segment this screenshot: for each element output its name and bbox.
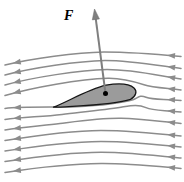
flow-arrowhead-icon bbox=[13, 89, 21, 95]
force-label: F bbox=[63, 8, 74, 23]
flow-arrowhead-icon bbox=[13, 104, 21, 110]
airfoil-flow-figure: F bbox=[0, 0, 184, 182]
center-of-pressure-dot bbox=[103, 91, 108, 96]
flow-arrowhead-icon bbox=[13, 135, 21, 141]
streamline bbox=[5, 118, 181, 130]
flow-arrowhead-icon bbox=[13, 125, 21, 131]
streamline bbox=[5, 70, 181, 86]
streamline bbox=[5, 52, 181, 65]
streamline bbox=[5, 152, 181, 161]
force-vector-shaft bbox=[96, 17, 106, 93]
streamline bbox=[5, 61, 181, 76]
flow-arrowhead-icon bbox=[167, 97, 175, 103]
flow-arrowhead-icon bbox=[167, 75, 175, 81]
streamline-diagram-canvas: F bbox=[0, 0, 184, 182]
force-arrowhead-icon bbox=[92, 9, 99, 20]
flow-arrowhead-icon bbox=[167, 65, 175, 71]
flow-arrowhead-icon bbox=[13, 78, 21, 84]
streamline bbox=[5, 164, 181, 173]
flow-arrowhead-icon bbox=[13, 146, 21, 152]
airfoil-shape bbox=[54, 84, 136, 107]
streamlines-group bbox=[5, 52, 181, 173]
streamline bbox=[5, 130, 181, 140]
flow-arrowhead-icon bbox=[13, 156, 21, 162]
flow-arrowhead-icon bbox=[13, 167, 21, 173]
streamline bbox=[5, 141, 181, 151]
